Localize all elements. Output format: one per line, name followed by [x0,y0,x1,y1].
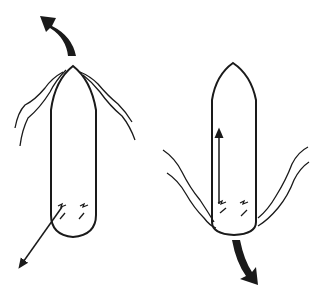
right-wake-line [163,150,214,222]
left-wake-line [83,75,135,140]
propeller-marks-icon [218,201,248,216]
right-wake-line [258,147,308,218]
right-wake-line [167,173,216,228]
left-hull [51,66,96,237]
right-figure [163,63,309,285]
arrow-down-left-icon [21,207,62,265]
diagram-canvas [0,0,323,302]
curved-arrow-up-left-icon [40,16,76,56]
curved-arrow-down-right-icon [232,240,258,285]
left-wake-line [15,72,63,128]
left-figure [15,16,135,265]
diagram-svg [0,0,323,302]
propeller-marks-icon [58,204,88,219]
right-wake-line [258,162,309,226]
